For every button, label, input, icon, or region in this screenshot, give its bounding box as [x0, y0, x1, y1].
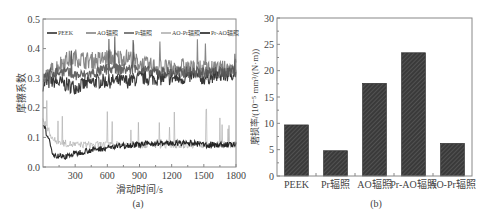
bar-1	[285, 125, 309, 176]
series-line-3	[43, 37, 236, 82]
x-tick-label: 1800	[226, 170, 246, 181]
wear-rate-chart: PEEKPr辐照AO辐照Pr-AO辐照AO-Pr辐照051015202530磨损…	[250, 0, 502, 219]
legend-label: Pr辐照	[135, 29, 152, 37]
y-tick-label: 25	[264, 39, 274, 50]
x-tick-label: 600	[100, 170, 115, 181]
legend-label: PEEK	[58, 30, 74, 36]
y-tick-label: 0.1	[28, 132, 41, 143]
legend-label: AO-Pr辐照	[172, 29, 200, 37]
y-tick-label: 0.0	[28, 162, 41, 173]
x-tick-label: 1200	[162, 170, 182, 181]
y-tick-label: 0.5	[28, 14, 41, 25]
y-tick-label: 30	[264, 13, 274, 24]
y-tick-label: 0.3	[28, 73, 41, 84]
bar-3	[363, 83, 387, 176]
y-axis-title: 摩擦系数	[15, 73, 27, 113]
category-label: AO辐照	[357, 178, 391, 190]
category-label: Pr辐照	[321, 178, 350, 190]
y-tick-label: 0.4	[28, 43, 41, 54]
y-tick-label: 0	[269, 171, 274, 182]
y-tick-label: 10	[264, 118, 274, 129]
legend-label: Pr-AO辐照	[211, 29, 239, 37]
x-tick-label: 900	[132, 170, 147, 181]
y-tick-label: 0.2	[28, 102, 41, 113]
line-chart-plot: 0.00.10.20.30.40.5300600900120015001800滑…	[0, 0, 250, 219]
y-tick-label: 20	[264, 65, 274, 76]
series-line-4	[43, 101, 236, 149]
category-label: PEEK	[284, 179, 310, 190]
bar-chart-plot: PEEKPr辐照AO辐照Pr-AO辐照AO-Pr辐照051015202530磨损…	[250, 0, 502, 219]
bar-2	[324, 151, 348, 176]
legend-label: AO辐照	[97, 29, 118, 37]
y-axis-title: 磨损率/(10⁻⁵ mm³/(N·m))	[250, 49, 260, 145]
bar-5	[441, 143, 465, 176]
x-tick-label: 300	[68, 170, 83, 181]
y-tick-label: 15	[264, 92, 274, 103]
x-tick-label: 1500	[194, 170, 214, 181]
bar-4	[402, 53, 426, 176]
friction-coefficient-chart: 0.00.10.20.30.40.5300600900120015001800滑…	[0, 0, 250, 219]
legend: PEEKAO辐照Pr辐照AO-Pr辐照Pr-AO辐照	[47, 29, 239, 37]
category-label: AO-Pr辐照	[429, 178, 476, 190]
panel-b-caption: (b)	[356, 198, 396, 209]
y-tick-label: 5	[269, 144, 274, 155]
panel-a-caption: (a)	[118, 198, 158, 209]
series-group	[43, 37, 236, 160]
x-axis-title: 滑动时间/s	[116, 183, 163, 195]
